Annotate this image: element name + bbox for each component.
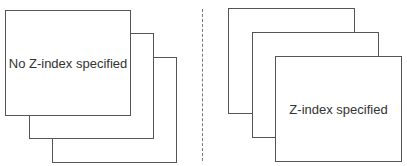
dashed-divider — [202, 9, 203, 161]
left-caption: No Z-index specified — [9, 56, 128, 71]
right-caption: Z-index specified — [289, 102, 387, 117]
right-front-box: Z-index specified — [275, 56, 402, 162]
left-front-box: No Z-index specified — [5, 10, 131, 116]
